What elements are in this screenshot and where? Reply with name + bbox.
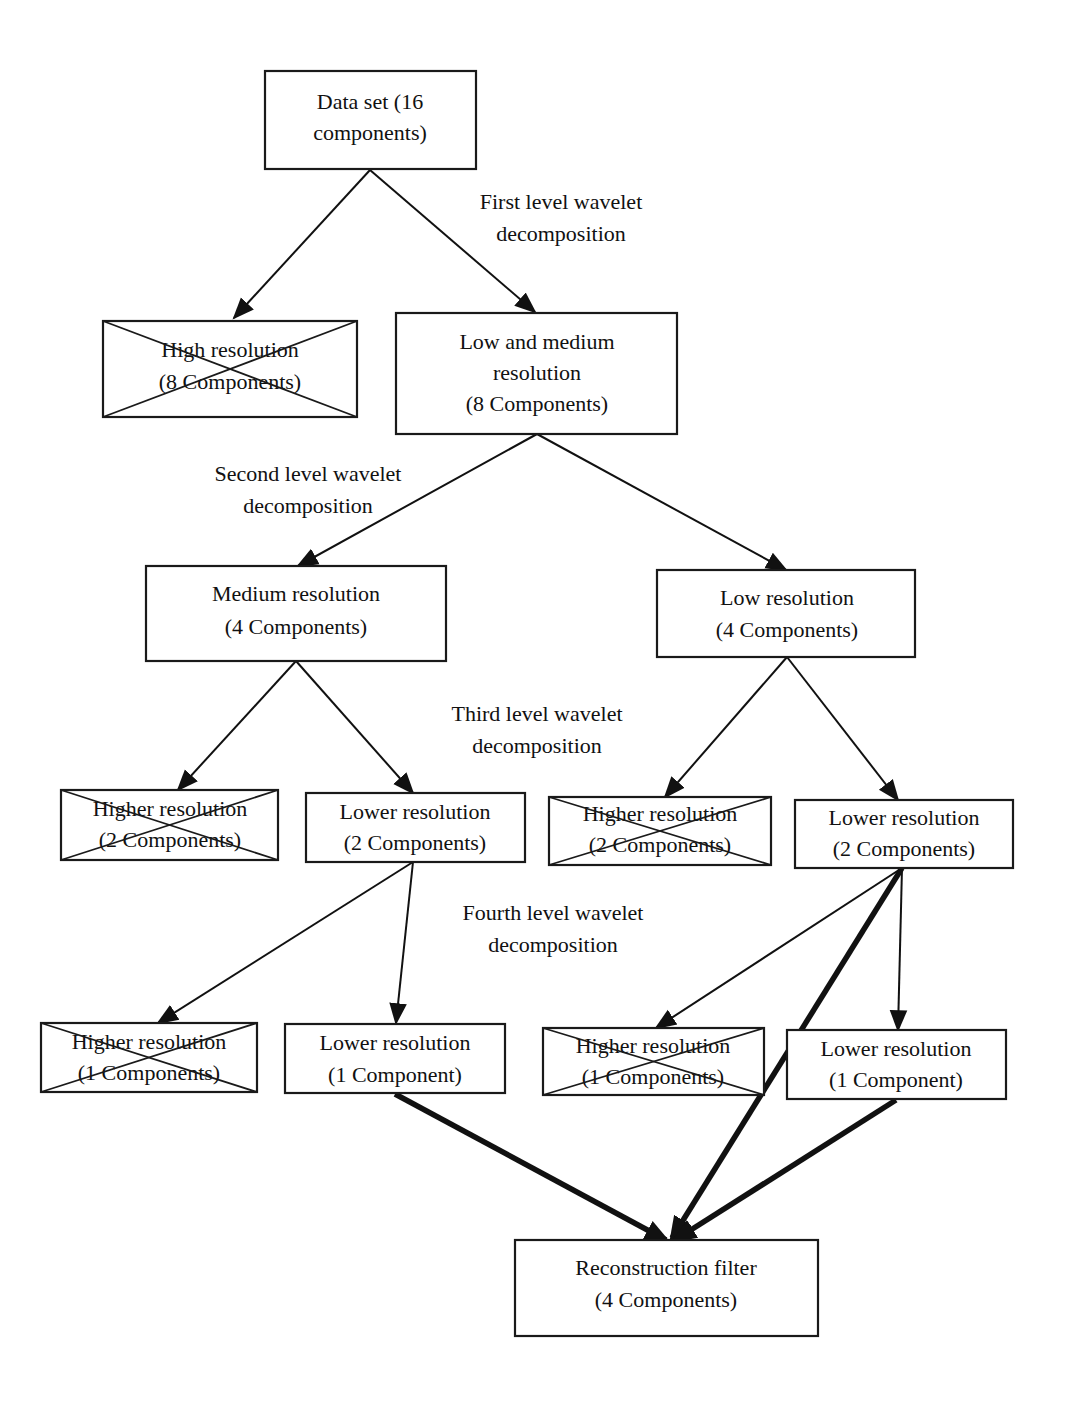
node-label: Low resolution: [720, 585, 854, 610]
node-medium-lower-lower: Lower resolution (1 Component): [285, 1024, 505, 1093]
node-medium-lower-higher-discarded: Higher resolution (1 Components): [41, 1023, 257, 1092]
edge-lowmed-low: [537, 434, 786, 570]
node-label: (2 Components): [344, 830, 486, 855]
level-label-text: First level wavelet: [480, 189, 643, 214]
node-label: resolution: [493, 360, 581, 385]
node-label: (1 Component): [829, 1067, 963, 1092]
level-label-third: Third level wavelet decomposition: [451, 701, 622, 758]
level-label-text: decomposition: [496, 221, 626, 246]
node-label: (8 Components): [466, 391, 608, 416]
edge-lllower-recon: [675, 1100, 896, 1240]
level-label-text: Third level wavelet: [451, 701, 622, 726]
node-label: (4 Components): [225, 614, 367, 639]
edge-low-lower: [787, 657, 898, 800]
node-label: components): [313, 120, 427, 145]
node-label: (2 Components): [833, 836, 975, 861]
node-label: (8 Components): [159, 369, 301, 394]
edge-low-higher: [665, 657, 787, 797]
node-label: Data set (16: [317, 89, 423, 114]
edge-medium-higher: [178, 661, 296, 790]
node-label: Lower resolution: [821, 1036, 972, 1061]
node-label: Reconstruction filter: [575, 1255, 757, 1280]
node-label: High resolution: [161, 337, 299, 362]
node-dataset: Data set (16 components): [265, 71, 476, 169]
edge-mlower-lower: [396, 862, 413, 1023]
level-label-text: Fourth level wavelet: [463, 900, 644, 925]
node-low-higher-discarded: Higher resolution (2 Components): [549, 797, 771, 865]
level-label-text: Second level wavelet: [215, 461, 402, 486]
level-label-text: decomposition: [472, 733, 602, 758]
node-low-lower: Lower resolution (2 Components): [795, 800, 1013, 868]
node-low-resolution: Low resolution (4 Components): [657, 570, 915, 657]
node-label: (2 Components): [99, 827, 241, 852]
node-low-medium-resolution: Low and medium resolution (8 Components): [396, 313, 677, 434]
node-medium-resolution: Medium resolution (4 Components): [146, 566, 446, 661]
level-label-text: decomposition: [488, 932, 618, 957]
node-label: (4 Components): [595, 1287, 737, 1312]
edge-llower-lower: [898, 868, 902, 1030]
node-label: Higher resolution: [72, 1029, 227, 1054]
edge-mmlower-recon: [395, 1094, 666, 1240]
node-label: Lower resolution: [320, 1030, 471, 1055]
level-label-fourth: Fourth level wavelet decomposition: [463, 900, 644, 957]
node-label: (4 Components): [716, 617, 858, 642]
node-high-resolution-discarded: High resolution (8 Components): [103, 321, 357, 417]
edge-dataset-high: [234, 170, 370, 318]
node-label: Lower resolution: [340, 799, 491, 824]
level-label-second: Second level wavelet decomposition: [215, 461, 402, 518]
node-label: (1 Component): [328, 1062, 462, 1087]
node-label: Low and medium: [459, 329, 614, 354]
edge-medium-lower: [296, 661, 413, 793]
wavelet-diagram: Data set (16 components) High resolution…: [0, 0, 1066, 1408]
node-medium-higher-discarded: Higher resolution (2 Components): [61, 790, 278, 860]
edge-llower-higher: [656, 868, 902, 1028]
edge-mlower-higher: [158, 862, 413, 1023]
node-label: Lower resolution: [829, 805, 980, 830]
node-medium-lower: Lower resolution (2 Components): [306, 793, 525, 862]
level-label-text: decomposition: [243, 493, 373, 518]
node-low-lower-higher-discarded: Higher resolution (1 Components): [543, 1028, 764, 1095]
node-reconstruction-filter: Reconstruction filter (4 Components): [515, 1240, 818, 1336]
node-label: (2 Components): [589, 832, 731, 857]
level-label-first: First level wavelet decomposition: [480, 189, 643, 246]
node-low-lower-lower: Lower resolution (1 Component): [787, 1030, 1006, 1099]
node-label: Medium resolution: [212, 581, 380, 606]
